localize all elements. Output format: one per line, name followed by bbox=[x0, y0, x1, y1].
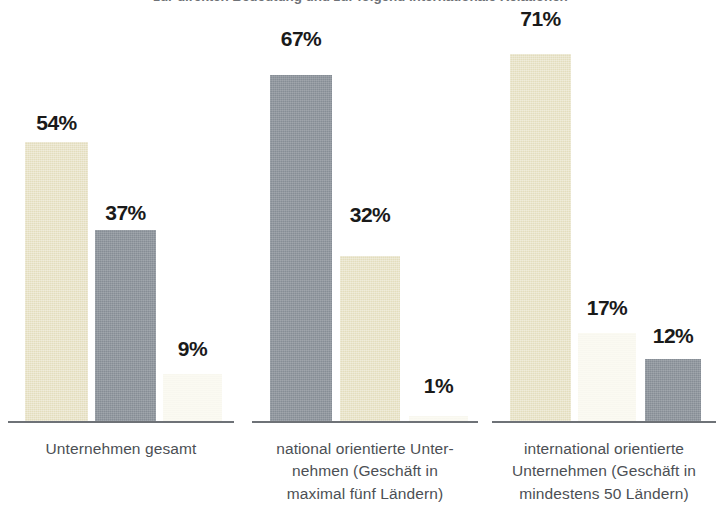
category-label-line: maximal fünf Ländern) bbox=[248, 483, 482, 505]
bar-chart-figure: zur direkten Bedeutung und zur folgend i… bbox=[0, 0, 721, 517]
bar bbox=[645, 359, 701, 421]
bar-value-label: 71% bbox=[498, 8, 583, 29]
bar-value-label: 67% bbox=[258, 28, 344, 49]
category-label: Unternehmen gesamt bbox=[4, 438, 238, 460]
bar bbox=[510, 54, 571, 421]
category-label-line: Unternehmen gesamt bbox=[4, 438, 238, 460]
category-label: national orientierte Unter-nehmen (Gesch… bbox=[248, 438, 482, 505]
bar-value-label: 37% bbox=[83, 202, 168, 223]
category-label-line: international orientierte bbox=[488, 438, 720, 460]
bar bbox=[340, 256, 400, 421]
category-label-line: Unternehmen (Geschäft in bbox=[488, 460, 720, 482]
category-label-line: national orientierte Unter- bbox=[248, 438, 482, 460]
category-label-line: nehmen (Geschäft in bbox=[248, 460, 482, 482]
bar bbox=[578, 333, 636, 421]
bar-value-label: 9% bbox=[151, 338, 234, 359]
bar-value-label: 17% bbox=[566, 297, 648, 318]
bar bbox=[409, 416, 468, 421]
bar bbox=[270, 75, 332, 421]
axis-baseline bbox=[252, 421, 478, 423]
bar-value-label: 54% bbox=[13, 112, 100, 133]
plot-area: 54%37%9%Unternehmen gesamt67%32%1%nation… bbox=[0, 0, 721, 517]
bar-value-label: 1% bbox=[397, 375, 480, 396]
bar bbox=[163, 374, 222, 421]
axis-baseline bbox=[492, 421, 716, 423]
bar bbox=[25, 142, 88, 421]
bar-value-label: 32% bbox=[328, 204, 412, 225]
axis-baseline bbox=[8, 421, 234, 423]
bar-value-label: 12% bbox=[633, 325, 713, 346]
bar bbox=[95, 230, 156, 421]
category-label: international orientierteUnternehmen (Ge… bbox=[488, 438, 720, 505]
category-label-line: mindestens 50 Ländern) bbox=[488, 483, 720, 505]
